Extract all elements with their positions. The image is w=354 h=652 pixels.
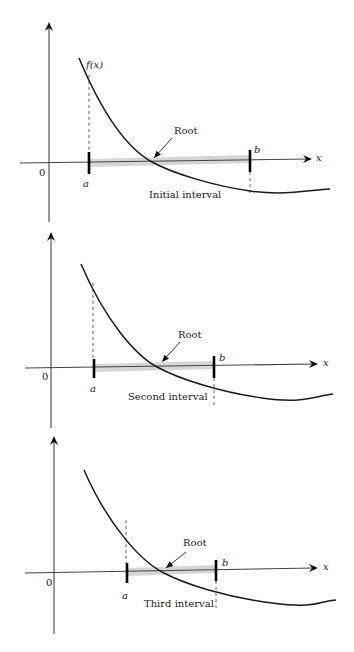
b-label: b (219, 353, 225, 363)
function-curve (79, 58, 330, 193)
origin-label: 0 (46, 578, 52, 588)
b-label: b (254, 145, 260, 155)
function-curve (81, 264, 333, 400)
interval-caption: Third interval (144, 599, 214, 609)
interval-caption: Second interval (128, 392, 208, 402)
bisection-figure: f(x)Rootab0xInitial intervalRootab0xSeco… (0, 0, 354, 652)
function-curve (84, 470, 336, 605)
figure-canvas (0, 0, 354, 652)
x-axis-label: x (323, 358, 329, 368)
origin-label: 0 (42, 372, 48, 382)
root-label: Root (174, 126, 198, 136)
a-label: a (90, 384, 96, 394)
x-axis-label: x (323, 562, 329, 572)
root-label: Root (178, 330, 202, 340)
a-label: a (122, 591, 128, 601)
b-label: b (222, 558, 228, 568)
origin-label: 0 (39, 168, 45, 178)
function-label: f(x) (86, 60, 103, 70)
x-axis-label: x (316, 153, 322, 163)
root-label: Root (183, 538, 207, 548)
a-label: a (83, 179, 89, 189)
interval-caption: Initial interval (149, 190, 221, 200)
